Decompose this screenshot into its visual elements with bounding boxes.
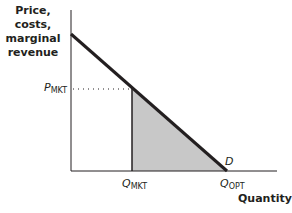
- p-mkt-label: PMKT: [44, 81, 67, 95]
- y-axis-label: Price, costs, marginal revenue: [0, 4, 66, 60]
- y-axis-label-line: Price, costs,: [0, 4, 66, 32]
- q-mkt-label: QMKT: [122, 177, 147, 191]
- y-axis-label-line: revenue: [0, 46, 66, 60]
- y-axis-label-line: marginal: [0, 32, 66, 46]
- demand-label: D: [225, 155, 233, 168]
- q-opt-label: QOPT: [220, 177, 245, 191]
- x-axis-label: Quantity: [238, 192, 292, 205]
